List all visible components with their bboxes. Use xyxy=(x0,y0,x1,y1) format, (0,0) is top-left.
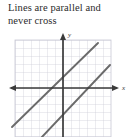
y-axis-label: y xyxy=(67,31,72,39)
figure-caption: Lines are parallel and never cross xyxy=(8,2,128,27)
x-axis-right-arrow xyxy=(112,85,119,91)
graph-svg: y x xyxy=(0,28,130,137)
parallel-lines-figure: Lines are parallel and never cross xyxy=(0,0,130,137)
x-axis-left-arrow xyxy=(9,85,16,91)
coordinate-plane: y x xyxy=(0,28,130,137)
x-axis-label: x xyxy=(121,84,126,92)
y-axis-top-arrow xyxy=(60,33,66,40)
